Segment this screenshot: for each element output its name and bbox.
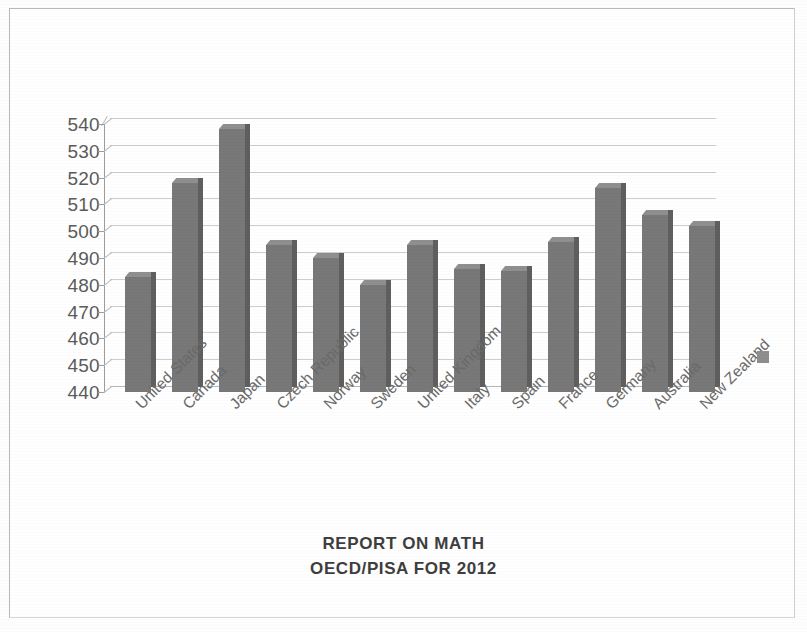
y-axis-tick-480: 480 <box>44 276 100 295</box>
bar-side-face <box>574 237 579 387</box>
y-axis-tick-450: 450 <box>44 356 100 375</box>
bar-front-face <box>548 242 574 392</box>
bar-side-face <box>151 272 156 387</box>
y-axis-tick-470: 470 <box>44 303 100 322</box>
x-axis-category-labels: United StatesCanadaJapanCzech RepublicNo… <box>104 394 764 514</box>
y-axis-tick-460: 460 <box>44 329 100 348</box>
chart-title: REPORT ON MATH <box>0 531 807 556</box>
bar-front-face <box>125 277 151 392</box>
y-axis-tick-500: 500 <box>44 222 100 241</box>
bar-japan <box>219 129 245 392</box>
bar-side-face <box>292 240 297 387</box>
legend-color-swatch <box>757 351 769 363</box>
bar-france <box>548 242 574 392</box>
bar-front-face <box>219 129 245 392</box>
bar-front-face <box>501 271 527 392</box>
bar-front-face <box>266 245 292 392</box>
bar-side-face <box>386 280 391 387</box>
y-axis-tick-530: 530 <box>44 142 100 161</box>
bar-front-face <box>595 188 621 392</box>
bar-spain <box>501 271 527 392</box>
scanned-page-background: 540530520510500490480470460450440 United… <box>0 0 807 632</box>
bar-side-face <box>527 266 532 387</box>
y-axis-tick-510: 510 <box>44 195 100 214</box>
bar-side-face <box>245 124 250 387</box>
bar-czech-republic <box>266 245 292 392</box>
gridline-540 <box>110 118 716 119</box>
bar-chart: 540530520510500490480470460450440 United… <box>0 0 807 632</box>
bar-side-face <box>715 221 720 387</box>
bar-germany <box>595 188 621 392</box>
y-axis-tick-520: 520 <box>44 169 100 188</box>
chart-subtitle: OECD/PISA FOR 2012 <box>0 556 807 581</box>
y-axis-tick-490: 490 <box>44 249 100 268</box>
y-axis-tick-440: 440 <box>44 383 100 402</box>
bar-side-face <box>339 253 344 387</box>
bar-side-face <box>668 210 673 387</box>
bar-side-face <box>480 264 485 387</box>
chart-title-block: REPORT ON MATH OECD/PISA FOR 2012 <box>0 531 807 581</box>
bar-united-states <box>125 277 151 392</box>
y-axis-tick-540: 540 <box>44 115 100 134</box>
bar-side-face <box>433 240 438 387</box>
bar-side-face <box>621 183 626 387</box>
